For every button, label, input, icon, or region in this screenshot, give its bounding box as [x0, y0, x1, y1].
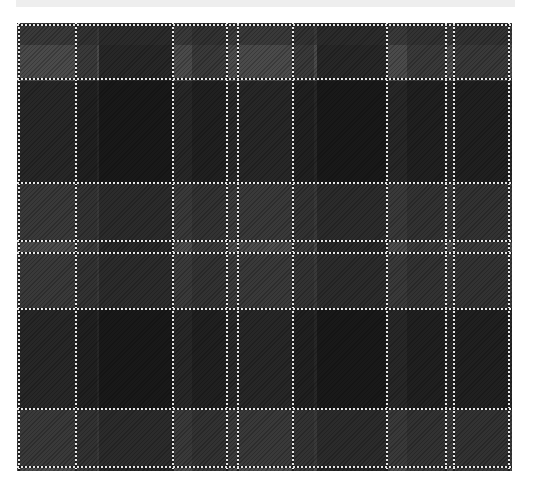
white-line: [17, 240, 512, 242]
white-line: [17, 78, 512, 80]
white-line: [17, 308, 512, 310]
white-line: [17, 24, 512, 26]
white-line: [17, 408, 512, 410]
white-line: [17, 182, 512, 184]
tartan-plaid-image: [17, 23, 512, 471]
white-line: [17, 466, 512, 468]
top-bar: [16, 0, 515, 7]
horizontal-white-lines: [17, 23, 512, 471]
white-line: [17, 252, 512, 254]
